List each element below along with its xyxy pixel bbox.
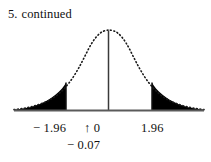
- left-tail-shaded-region: [14, 83, 66, 110]
- label-center-mean: ↑ 0: [84, 121, 100, 136]
- axis-label-row: − 1.96 ↑ 0 1.96 − 0.07: [0, 121, 211, 159]
- figure-title-text: continued: [22, 7, 72, 21]
- label-lower-critical-value: − 1.96: [33, 121, 66, 136]
- normal-curve-plot: [0, 22, 211, 117]
- figure-container: 5.continued − 1.96 ↑ 0 1.96 − 0.07: [0, 0, 211, 162]
- label-upper-critical-value: 1.96: [141, 121, 164, 136]
- right-tail-shaded-region: [152, 83, 204, 110]
- figure-title: 5.continued: [8, 7, 72, 22]
- figure-title-number: 5.: [8, 7, 18, 21]
- label-test-statistic: − 0.07: [67, 138, 100, 153]
- normal-distribution-svg: [0, 22, 211, 117]
